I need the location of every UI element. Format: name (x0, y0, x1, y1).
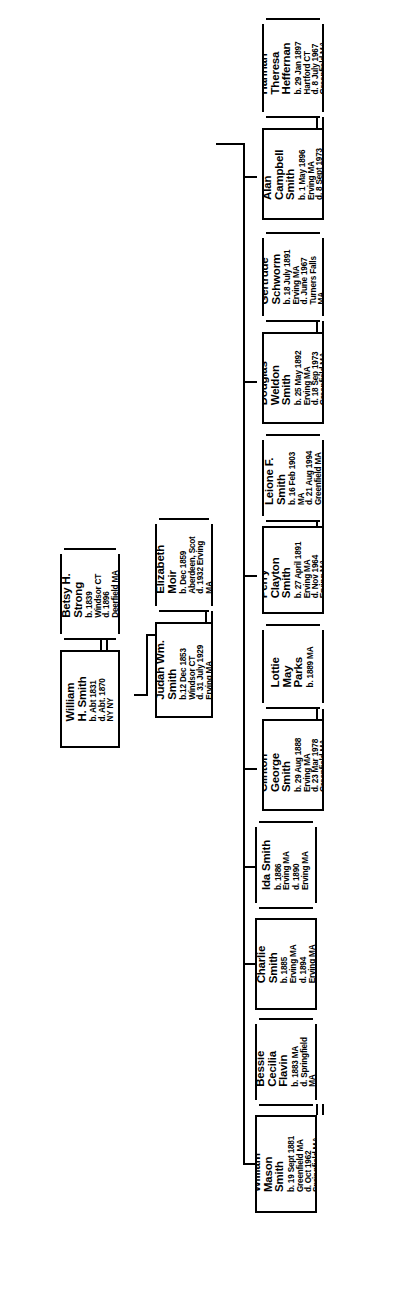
person-box-charlie-smith[interactable]: Charlie Smith b. 1885 Erving MA d. 1894 … (255, 918, 317, 1010)
family-tree-chart: Hannah Theresa Heffernan b. 29 Jan 1897 … (0, 0, 397, 1307)
connector-judah-to-spine (216, 143, 245, 145)
person-detail-line: Greenfield MA (320, 352, 324, 405)
person-box-clinton-george-smith[interactable]: Clinton George Smith b. 29 Aug 1888 Ervi… (262, 719, 324, 811)
person-name-line: Betsy H. (61, 573, 73, 617)
marriage-link-douglas-gertrude (316, 321, 324, 332)
person-box-william-h-smith[interactable]: William H. Smith b. Abt 1831 d. Abt. 187… (60, 650, 120, 748)
person-name-line: Smith (281, 374, 293, 405)
person-name-line: Smith (275, 474, 287, 505)
person-box-elizabeth-moir[interactable]: Elizabeth Moir b. Dec 1859 Aberdeen, Sco… (155, 518, 213, 612)
person-detail-line: Erving MA (205, 661, 213, 700)
person-detail-line: Erving MA (302, 851, 310, 890)
person-name-line: William (65, 683, 77, 722)
person-box-ida-smith[interactable]: Ida Smith b. 1886 Erving MA d. 1890 Ervi… (255, 821, 317, 909)
person-box-bessie-cecilia-flavin[interactable]: Bessie Cecilia Flavin b. 1883 MA d. Spri… (255, 1018, 317, 1106)
person-box-douglas-weldon-smith[interactable]: Douglas Weldon Smith b. 25 May 1892 Ervi… (262, 332, 324, 424)
person-detail-line: b. 1889 MA (307, 646, 315, 687)
person-name-line: Smith (267, 952, 279, 983)
person-detail-line: MA (318, 292, 324, 304)
person-box-betsy-h-strong[interactable]: Betsy H. Strong b. 1839 Windsor CT d. 18… (60, 548, 120, 640)
person-box-alan-campbell-smith[interactable]: Alan Campbell Smith b. 1 May 1896 Erving… (262, 128, 324, 220)
person-detail-line: Greenfield MA (320, 739, 324, 792)
person-name-line: Smith (285, 169, 297, 200)
person-name-line: Moir (166, 570, 178, 593)
person-name-line: Alan (262, 176, 274, 200)
person-name-line: Strong (72, 582, 84, 618)
person-name-line: Leione F. (264, 458, 276, 505)
person-detail-line: NY NY (107, 698, 115, 722)
person-box-lottie-may-parks[interactable]: Lottie May Parks b. 1889 MA (262, 624, 324, 709)
connector-stub-alan (243, 176, 257, 178)
person-name-line: Flavin (278, 1055, 290, 1087)
person-detail-line: Erving MA (289, 945, 297, 984)
person-name-line: Smith (274, 1161, 286, 1192)
connector-williamh-children-spine (146, 634, 148, 694)
person-name-line: Schworm (271, 254, 283, 304)
person-name-line: Ida Smith (261, 840, 273, 890)
person-box-gertrude-schworm[interactable]: Gertrude Schworm b. 18 July 1891 Erving … (262, 232, 324, 322)
marriage-link-alan-hannah (316, 117, 324, 128)
person-box-judah-wm-smith[interactable]: Judah Wm. Smith b.12 Dec 1853 Windsor CT… (155, 622, 213, 718)
connector-stub-perry (243, 575, 257, 577)
connector-williamh-to-spine (134, 694, 148, 696)
person-detail-line: Erving MA (284, 851, 292, 890)
person-detail-line: Greenfield MA (320, 42, 324, 95)
person-box-leione-f-smith[interactable]: Leione F. Smith b. 16 Feb 1903 MA d. 21 … (262, 434, 324, 522)
person-detail-line: Deerfield MA (111, 570, 119, 618)
person-detail-line: Springfield MA (313, 1137, 317, 1192)
marriage-link-judah-elizabeth (205, 611, 213, 622)
marriage-link-clinton-lottie (316, 709, 324, 719)
person-name-line: Lottie (270, 657, 282, 687)
person-name-line: Parks (294, 657, 306, 687)
marriage-link-william-bessie (316, 1104, 324, 1115)
connector-judah-children-spine (243, 143, 245, 1164)
person-name-line: Smith (166, 669, 178, 700)
person-box-william-mason-smith[interactable]: William Mason Smith b. 19 Sept 1881 Gree… (255, 1115, 317, 1213)
person-detail-line: Greenfield MA (314, 452, 322, 505)
person-detail-line: Erving MA (308, 945, 316, 984)
person-detail-line: MA (205, 581, 213, 593)
person-box-hannah-theresa-heffernan[interactable]: Hannah Theresa Heffernan b. 29 Jan 1897 … (262, 18, 324, 118)
person-detail-line: MA (309, 1074, 317, 1086)
person-detail-line: Erving MA (320, 560, 324, 599)
person-name-line: Smith (281, 567, 293, 598)
connector-stub-douglas (243, 381, 257, 383)
person-name-line: Smith (281, 761, 293, 792)
person-detail-line: d. 8 Sept 1973 (316, 148, 324, 200)
person-name-line: H. Smith (76, 676, 88, 721)
person-name-line: Heffernan (281, 43, 293, 95)
connector-stub-ida (243, 866, 255, 868)
person-name-line: Bessie (255, 1051, 267, 1087)
person-name-line: Charlie (256, 946, 268, 984)
connector-stub-clinton (243, 768, 257, 770)
person-box-perry-clayton-smith[interactable]: Perry Clayton Smith b. 27 April 1891 Erv… (262, 526, 324, 614)
